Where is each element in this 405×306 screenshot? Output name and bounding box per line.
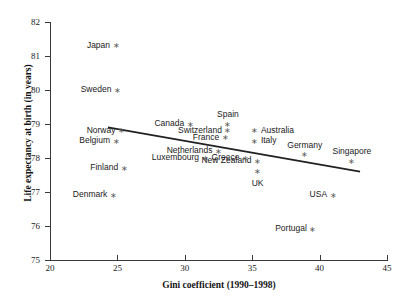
data-point-label: Finland [118, 163, 146, 172]
data-point-label: Portugal [307, 224, 339, 233]
data-point-label-text: Finland [90, 163, 118, 172]
data-point-label: Australia [261, 126, 294, 135]
data-point-label: France [219, 133, 245, 142]
data-point-label-text: Japan [87, 41, 110, 50]
y-axis-title: Life expectancy at birth (in years) [23, 53, 33, 213]
data-point-marker: ∗ [251, 127, 258, 134]
data-point-label: Denmark [107, 190, 141, 199]
data-point-label: Japan [110, 41, 133, 50]
data-point-marker: ∗ [348, 158, 355, 165]
data-point-label: Sweden [111, 85, 142, 94]
data-point-marker: ∗ [254, 168, 261, 175]
data-point-label: Germany [287, 141, 322, 150]
data-point-label: Belgium [110, 136, 141, 145]
data-point-label-text: Denmark [73, 190, 107, 199]
data-point-label-text: Greece [212, 153, 240, 162]
data-point-label: Italy [261, 136, 277, 145]
x-axis-title: Gini coefficient (1990–1998) [50, 280, 388, 290]
data-point-marker: ∗ [251, 138, 258, 145]
data-point-label-text: Portugal [275, 224, 307, 233]
data-point-label: UK [252, 179, 264, 188]
data-point-marker: ∗ [301, 151, 308, 158]
data-point-label-text: Sweden [81, 85, 112, 94]
data-point-label: USA [327, 190, 344, 199]
data-point-label-text: Luxembourg [152, 153, 199, 162]
data-point-label: Singapore [333, 147, 372, 156]
data-point-label: Greece [239, 153, 267, 162]
data-point-label-text: Belgium [79, 136, 110, 145]
data-point-label: Norway [115, 126, 144, 135]
data-point-label-text: Norway [87, 126, 116, 135]
data-point-label: Spain [217, 110, 239, 119]
scatter-chart-figure: 7576777879808182 202530354045 Gini coeff… [0, 0, 405, 306]
data-point-label-text: USA [310, 190, 327, 199]
data-point-label-text: France [193, 133, 219, 142]
